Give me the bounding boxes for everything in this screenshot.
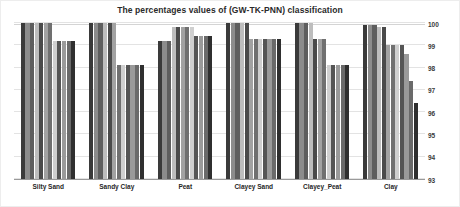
y-axis-tick-label: 94 (428, 154, 435, 161)
bar (309, 23, 313, 179)
bar (245, 23, 249, 179)
bar (108, 23, 112, 179)
bar (391, 45, 395, 179)
bar-group (220, 25, 289, 179)
x-axis-tick-label: Clayey Sand (234, 183, 273, 190)
bar-group (151, 25, 220, 179)
bar (295, 23, 299, 179)
x-axis: Silty SandSandy ClayPeatClayey SandClaye… (14, 183, 425, 197)
bar (172, 27, 176, 179)
bar (414, 103, 418, 179)
bar (226, 23, 230, 179)
y-axis-tick-label: 93 (428, 177, 435, 184)
bar (135, 65, 139, 179)
bar (181, 27, 185, 179)
bar (103, 23, 107, 179)
bar (345, 65, 349, 179)
bar (98, 23, 102, 179)
bar (53, 41, 57, 179)
bar (331, 65, 335, 179)
bar (48, 23, 52, 179)
bar (67, 41, 71, 179)
y-axis: 93949596979899100 (428, 0, 458, 207)
x-axis-tick-label: Silty Sand (33, 183, 64, 190)
bar (167, 41, 171, 179)
bar (162, 41, 166, 179)
bar (185, 27, 189, 179)
y-axis-tick-label: 98 (428, 65, 435, 72)
bar (25, 23, 29, 179)
bar (386, 45, 390, 179)
x-axis-tick-label: Clay (384, 183, 398, 190)
bar (254, 39, 258, 179)
bar (35, 23, 39, 179)
y-axis-tick-label: 97 (428, 87, 435, 94)
bar (176, 27, 180, 179)
bar (267, 39, 271, 179)
y-axis-tick-label: 99 (428, 43, 435, 50)
bar (158, 41, 162, 179)
bar (194, 36, 198, 179)
bar (382, 27, 386, 179)
bar (322, 39, 326, 179)
bar (327, 65, 331, 179)
bar (313, 39, 317, 179)
bar (204, 36, 208, 179)
bar (130, 65, 134, 179)
bar (277, 39, 281, 179)
bar (318, 39, 322, 179)
bar (304, 23, 308, 179)
bar (377, 27, 381, 179)
gridline (14, 22, 425, 23)
bar (258, 39, 262, 179)
bar (272, 39, 276, 179)
bar-group (14, 25, 83, 179)
bar (94, 23, 98, 179)
y-axis-tick-label: 95 (428, 132, 435, 139)
bar-group (83, 25, 152, 179)
bar (190, 27, 194, 179)
x-axis-tick-label: Clayey_Peat (303, 183, 341, 190)
bar (231, 23, 235, 179)
bar (336, 65, 340, 179)
bar (126, 65, 130, 179)
plot-area (14, 24, 425, 180)
bar (30, 23, 34, 179)
bar (409, 81, 413, 179)
bar (240, 23, 244, 179)
bar-series (14, 25, 425, 179)
bar (121, 65, 125, 179)
y-axis-tick-label: 100 (428, 21, 439, 28)
bar (263, 39, 267, 179)
bar (208, 36, 212, 179)
bar (404, 54, 408, 179)
bar (44, 23, 48, 179)
bar (71, 41, 75, 179)
bar-group (288, 25, 357, 179)
chart-container: The percentages values of (GW-TK-PNN) cl… (0, 0, 460, 207)
x-axis-tick-label: Peat (178, 183, 192, 190)
bar (21, 23, 25, 179)
bar (372, 25, 376, 179)
bar (363, 25, 367, 179)
bar (368, 25, 372, 179)
y-axis-tick-label: 96 (428, 110, 435, 117)
bar (140, 65, 144, 179)
bar (89, 23, 93, 179)
bar (39, 23, 43, 179)
bar (341, 65, 345, 179)
bar-group (357, 25, 426, 179)
chart-title: The percentages values of (GW-TK-PNN) cl… (0, 5, 460, 15)
bar (235, 23, 239, 179)
bar (299, 23, 303, 179)
bar (57, 41, 61, 179)
bar (395, 45, 399, 179)
bar (117, 65, 121, 179)
bar (199, 36, 203, 179)
x-axis-tick-label: Sandy Clay (99, 183, 134, 190)
bar (400, 45, 404, 179)
bar (249, 39, 253, 179)
bar (62, 41, 66, 179)
bar (112, 23, 116, 179)
